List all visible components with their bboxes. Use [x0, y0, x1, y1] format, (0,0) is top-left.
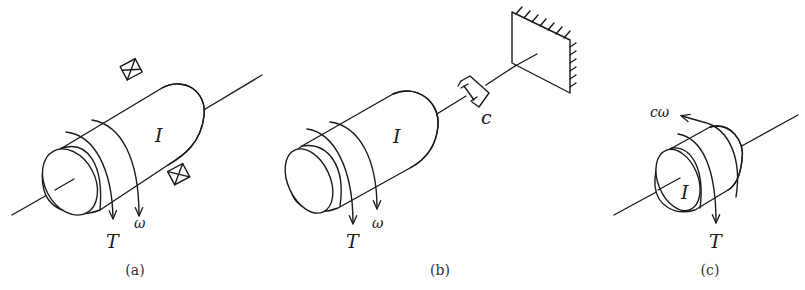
label-omega-a: ω — [134, 216, 145, 230]
label-torque-b: T — [346, 232, 359, 251]
shaft-wall — [486, 66, 515, 85]
panel-a — [12, 59, 262, 225]
label-damping-torque-c: cω — [650, 105, 669, 119]
label-torque-a: T — [106, 232, 119, 251]
panel-b — [276, 7, 576, 223]
shaft-right — [202, 75, 262, 111]
label-torque-c: T — [709, 232, 722, 251]
caption-a: (a) — [125, 263, 144, 277]
mechanical-diagram: I T ω (a) I T ω c (b) cω I T (c) — [0, 0, 805, 290]
shaft-c-left — [614, 190, 660, 215]
cylinder-rotor-b — [276, 91, 439, 221]
bearing-top — [120, 59, 142, 80]
cylinder-rotor — [31, 84, 204, 225]
bearing-bottom — [168, 164, 190, 185]
rotary-damper — [458, 76, 489, 107]
diagram-canvas — [0, 0, 805, 290]
label-damping-b: c — [481, 108, 492, 127]
caption-c: (c) — [701, 263, 720, 277]
caption-b: (b) — [430, 263, 450, 277]
label-omega-b: ω — [372, 216, 383, 230]
fixed-wall — [512, 7, 576, 93]
panel-c — [614, 115, 798, 222]
label-inertia-a: I — [155, 126, 163, 145]
label-inertia-c: I — [681, 183, 689, 202]
shaft-c-right — [738, 115, 798, 148]
label-inertia-b: I — [393, 127, 401, 146]
